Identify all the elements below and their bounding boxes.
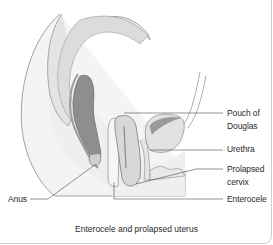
figure-caption: Enterocele and prolapsed uterus <box>0 224 273 234</box>
label-enterocele: Enterocele <box>227 194 267 205</box>
abdominal-wall <box>184 72 200 124</box>
label-urethra: Urethra <box>227 144 255 155</box>
label-pouch-of-douglas-1: Pouch of <box>227 108 260 119</box>
figure-frame: Pouch of Douglas Urethra Prolapsed cervi… <box>0 0 272 244</box>
label-pouch-of-douglas-2: Douglas <box>227 121 258 132</box>
label-prolapsed-cervix-1: Prolapsed <box>227 164 264 175</box>
label-anus: Anus <box>8 194 27 205</box>
abdominal-wall-2 <box>188 76 206 128</box>
anal-canal <box>89 154 101 166</box>
label-prolapsed-cervix-2: cervix <box>227 177 249 188</box>
